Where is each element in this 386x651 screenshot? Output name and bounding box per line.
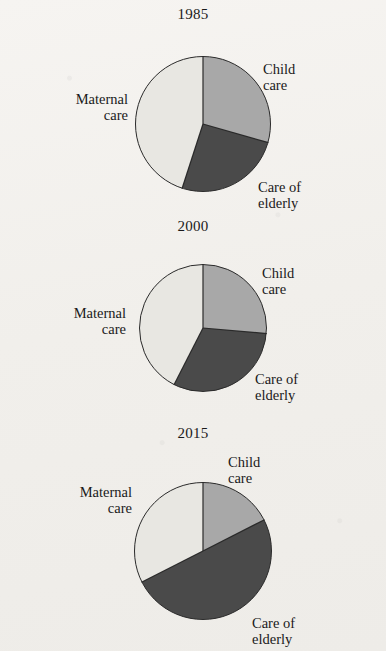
label-care-of-elderly-1985: Care of elderly <box>258 179 301 211</box>
label-child-care-1985: Child care <box>263 61 295 93</box>
label-child-care-2015: Child care <box>228 454 260 486</box>
pie-separators-2015 <box>134 482 272 620</box>
chart-title-2015: 2015 <box>0 425 386 442</box>
chart-title-2000: 2000 <box>0 218 386 235</box>
chart-title-1985: 1985 <box>0 6 386 23</box>
pie-panel-2015: 2015 Child care Maternal care Care of el… <box>0 425 386 651</box>
label-maternal-care-1985: Maternal care <box>8 91 128 123</box>
label-child-care-2000: Child care <box>262 265 294 297</box>
pie-separators-1985 <box>135 56 271 192</box>
pie-separators-2000 <box>139 264 267 392</box>
label-care-of-elderly-2000: Care of elderly <box>255 371 298 403</box>
pie-panel-1985: 1985 Child care Maternal care Care of el… <box>0 6 386 216</box>
pie-panel-2000: 2000 Child care Maternal care Care of el… <box>0 218 386 423</box>
label-care-of-elderly-2015: Care of elderly <box>252 615 295 647</box>
label-maternal-care-2000: Maternal care <box>4 305 126 337</box>
label-maternal-care-2015: Maternal care <box>10 484 132 516</box>
